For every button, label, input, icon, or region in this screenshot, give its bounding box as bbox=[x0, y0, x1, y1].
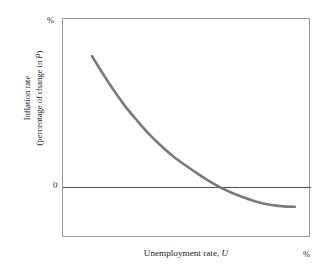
x-axis-unit-label: % bbox=[303, 249, 310, 259]
y-axis-title-line-2-suffix: ) bbox=[34, 51, 44, 54]
chart-canvas bbox=[63, 19, 311, 238]
y-axis-title-line-1: Inflation rate bbox=[21, 8, 33, 188]
y-axis-title-variable: P bbox=[34, 53, 44, 58]
y-axis-title: Inflation rate (percentage of change in … bbox=[21, 8, 45, 188]
y-axis-zero-tick-label: 0 bbox=[53, 180, 58, 190]
plot-area bbox=[62, 18, 310, 237]
x-axis-title-text: Unemployment rate, bbox=[144, 248, 222, 258]
x-axis-title: Unemployment rate, U bbox=[62, 248, 310, 258]
y-axis-title-line-2-prefix: (percentage of change in bbox=[34, 59, 44, 146]
phillips-curve-line bbox=[92, 56, 295, 207]
phillips-curve-figure: % 0 Inflation rate (percentage of change… bbox=[0, 0, 326, 268]
y-axis-title-line-2: (percentage of change in P) bbox=[33, 8, 45, 188]
y-axis-unit-label: % bbox=[47, 15, 54, 25]
x-axis-title-variable: U bbox=[222, 248, 229, 258]
